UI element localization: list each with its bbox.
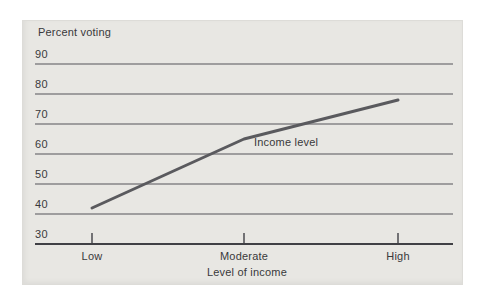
y-tick-label-60: 60 <box>35 138 48 150</box>
x-tick-label-high: High <box>343 250 453 262</box>
x-tick-label-moderate: Moderate <box>189 250 299 262</box>
x-axis-title: Level of income <box>167 266 327 278</box>
y-tick-label-90: 90 <box>35 48 48 60</box>
x-tick-label-low: Low <box>37 250 147 262</box>
y-tick-label-30: 30 <box>35 228 48 240</box>
y-tick-label-70: 70 <box>35 108 48 120</box>
y-tick-label-50: 50 <box>35 168 48 180</box>
y-axis-title: Percent voting <box>38 26 111 38</box>
figure-canvas: Percent voting 90807060504030 LowModerat… <box>0 0 484 306</box>
y-tick-label-80: 80 <box>35 78 48 90</box>
y-tick-label-40: 40 <box>35 198 48 210</box>
series-label: Income level <box>254 136 318 148</box>
